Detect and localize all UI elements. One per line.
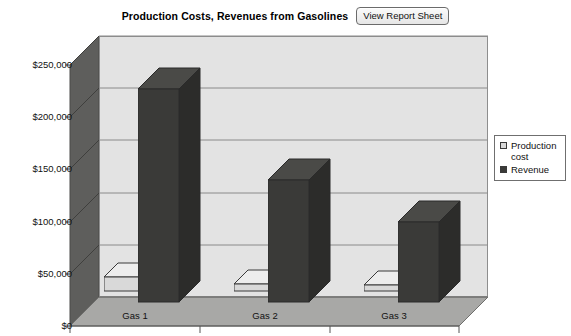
y-tick-label-150000: $150,000 <box>32 163 72 174</box>
x-tick-label-gas-3: Gas 3 <box>381 310 406 321</box>
plot-area: $250,000 $200,000 $150,000 $100,000 $50,… <box>0 0 571 336</box>
y-tick-label-200000: $200,000 <box>32 111 72 122</box>
bar-gas2-revenue[interactable] <box>268 0 328 336</box>
y-tick-label-250000: $250,000 <box>32 59 72 70</box>
legend-label-revenue: Revenue <box>511 164 549 175</box>
y-tick-label-0: $0 <box>61 320 72 331</box>
chart-legend: Production cost Revenue <box>494 135 566 181</box>
x-tick-label-gas-1: Gas 1 <box>122 310 147 321</box>
legend-item-production-cost[interactable]: Production cost <box>500 140 560 162</box>
x-tick-label-gas-2: Gas 2 <box>252 310 277 321</box>
chart-container: Production Costs, Revenues from Gasoline… <box>0 0 571 336</box>
legend-item-revenue[interactable]: Revenue <box>500 164 560 175</box>
legend-swatch-revenue <box>500 166 507 173</box>
y-tick-label-50000: $50,000 <box>38 268 72 279</box>
legend-swatch-production-cost <box>500 142 507 149</box>
legend-label-production-cost: Production cost <box>511 140 560 162</box>
y-tick-label-100000: $100,000 <box>32 216 72 227</box>
bar-gas1-revenue[interactable] <box>138 0 198 336</box>
bar-gas3-revenue[interactable] <box>398 0 458 336</box>
